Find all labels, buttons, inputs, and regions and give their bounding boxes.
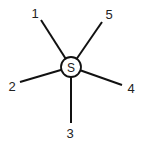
spoke-label-2: 2 (8, 79, 15, 94)
star-diagram: 15243 S (0, 0, 142, 147)
diagram-canvas: 15243 S (0, 0, 142, 147)
center-node-label: S (67, 61, 75, 75)
spoke-label-1: 1 (31, 6, 38, 21)
spoke-label-3: 3 (66, 126, 73, 141)
spoke-label-5: 5 (105, 7, 112, 22)
spoke-label-4: 4 (127, 81, 134, 96)
